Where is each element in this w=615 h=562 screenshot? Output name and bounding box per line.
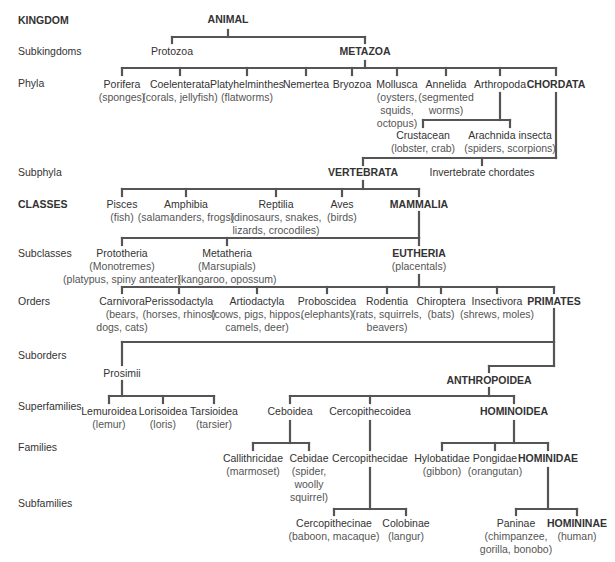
taxon-aves: Aves(birds) bbox=[327, 198, 357, 224]
taxon-name: Arachnida insecta bbox=[464, 129, 556, 142]
taxon-description: (lobster, crab) bbox=[391, 142, 455, 155]
taxon-name: Platyhelminthes bbox=[210, 78, 284, 91]
taxon-coelenterata: Coelenterata(corals, jellyfish) bbox=[142, 78, 217, 104]
taxon-description: (sponges) bbox=[99, 91, 146, 104]
taxon-cebidae: Cebidae(spider,woollysquirrel) bbox=[289, 452, 328, 504]
taxon-description: (fish) bbox=[107, 211, 138, 224]
taxon-name: Cebidae bbox=[289, 452, 328, 465]
taxon-name: MAMMALIA bbox=[390, 198, 448, 211]
taxon-name: Annelida bbox=[418, 78, 473, 91]
taxon-hominidae: HOMINIDAE bbox=[518, 452, 578, 465]
taxon-description: worms) bbox=[418, 104, 473, 117]
taxon-name: Tarsioidea bbox=[190, 405, 238, 418]
rank-label-subphyla: Subphyla bbox=[18, 166, 62, 178]
taxon-name: Carnivora bbox=[96, 295, 147, 308]
taxon-description: (marmoset) bbox=[223, 465, 283, 478]
taxon-name: ANIMAL bbox=[208, 13, 249, 26]
taxon-description: (langur) bbox=[382, 530, 429, 543]
taxon-name: Invertebrate chordates bbox=[429, 166, 534, 179]
taxon-description: (salamanders, frogs) bbox=[138, 211, 234, 224]
taxon-callithricidae: Callithricidae(marmoset) bbox=[223, 452, 283, 478]
taxon-perissodactyla: Perissodactyla(horses, rhinos) bbox=[143, 295, 216, 321]
taxon-lorisoidea: Lorisoidea(loris) bbox=[139, 405, 187, 431]
rank-label-families: Families bbox=[18, 441, 57, 453]
taxon-name: EUTHERIA bbox=[392, 247, 446, 260]
taxon-description: (placentals) bbox=[392, 260, 446, 273]
taxon-name: Pisces bbox=[107, 198, 138, 211]
taxon-name: Lorisoidea bbox=[139, 405, 187, 418]
taxon-name: Perissodactyla bbox=[143, 295, 216, 308]
taxon-artiodactyla: Artiodactyla(cows, pigs, hippos,camels, … bbox=[211, 295, 303, 334]
taxon-arthropoda: Arthropoda bbox=[474, 78, 526, 91]
taxon-nemertea: Nemertea bbox=[283, 78, 329, 91]
taxon-prosimii: Prosimii bbox=[103, 367, 140, 380]
taxon-description: (bats) bbox=[416, 308, 465, 321]
taxon-invertebrate: Invertebrate chordates bbox=[429, 166, 534, 179]
taxon-description: squirrel) bbox=[289, 491, 328, 504]
taxon-name: Paninae bbox=[480, 517, 552, 530]
taxon-description: (horses, rhinos) bbox=[143, 308, 216, 321]
taxon-insectivora: Insectivora(shrews, moles) bbox=[460, 295, 534, 321]
taxonomy-diagram: KINGDOMSubkingdomsPhylaSubphylaCLASSESSu… bbox=[0, 0, 615, 562]
taxon-name: Nemertea bbox=[283, 78, 329, 91]
taxon-reptilia: Reptilia(dinosaurs, snakes,lizards, croc… bbox=[230, 198, 321, 237]
taxon-amphibia: Amphibia(salamanders, frogs) bbox=[138, 198, 234, 224]
taxon-name: Rodentia bbox=[352, 295, 421, 308]
taxon-prototheria: Prototheria(Monotremes)(platypus, spiny … bbox=[63, 247, 181, 286]
taxon-metatheria: Metatheria(Marsupials)(kangaroo, opossum… bbox=[177, 247, 276, 286]
taxon-arachnida: Arachnida insecta(spiders, scorpions) bbox=[464, 129, 556, 155]
taxon-description: camels, deer) bbox=[211, 321, 303, 334]
taxon-description: (human) bbox=[547, 530, 607, 543]
taxon-description: (kangaroo, opossum) bbox=[177, 273, 276, 286]
taxon-chiroptera: Chiroptera(bats) bbox=[416, 295, 465, 321]
rank-label-superfamilies: Superfamilies bbox=[18, 400, 82, 412]
taxon-mollusca: Mollusca(oysters,squids,octopus) bbox=[376, 78, 417, 130]
taxon-name: METAZOA bbox=[339, 45, 390, 58]
taxon-description: (chimpanzee, bbox=[480, 530, 552, 543]
taxon-description: (loris) bbox=[139, 418, 187, 431]
taxon-name: Proboscidea bbox=[298, 295, 356, 308]
taxon-anthropoidea: ANTHROPOIDEA bbox=[446, 374, 531, 387]
taxon-paninae: Paninae(chimpanzee,gorilla, bonobo) bbox=[480, 517, 552, 556]
taxon-description: (orangutan) bbox=[468, 465, 522, 478]
taxon-description: (elephants) bbox=[298, 308, 356, 321]
taxon-hylobatidae: Hylobatidae(gibbon) bbox=[414, 452, 469, 478]
rank-label-orders: Orders bbox=[18, 295, 50, 307]
taxon-name: Chiroptera bbox=[416, 295, 465, 308]
taxon-name: Colobinae bbox=[382, 517, 429, 530]
rank-label-classes: CLASSES bbox=[18, 198, 68, 210]
taxon-name: CHORDATA bbox=[527, 78, 586, 91]
taxon-name: PRIMATES bbox=[527, 295, 580, 308]
taxon-animal: ANIMAL bbox=[208, 13, 249, 26]
taxon-chordata: CHORDATA bbox=[527, 78, 586, 91]
taxon-name: Arthropoda bbox=[474, 78, 526, 91]
rank-label-subfamilies: Subfamilies bbox=[18, 497, 72, 509]
taxon-hominoidea: HOMINOIDEA bbox=[480, 405, 548, 418]
taxon-porifera: Porifera(sponges) bbox=[99, 78, 146, 104]
taxon-name: Porifera bbox=[99, 78, 146, 91]
taxon-name: Coelenterata bbox=[142, 78, 217, 91]
taxon-homininae: HOMININAE(human) bbox=[547, 517, 607, 543]
taxon-description: woolly bbox=[289, 478, 328, 491]
taxon-name: Insectivora bbox=[460, 295, 534, 308]
taxon-primates: PRIMATES bbox=[527, 295, 580, 308]
taxon-rodentia: Rodentia(rats, squirrels,beavers) bbox=[352, 295, 421, 334]
taxon-name: Cercopithecidae bbox=[332, 452, 408, 465]
rank-label-subkingdoms: Subkingdoms bbox=[18, 45, 82, 57]
rank-label-kingdom: KINGDOM bbox=[18, 14, 69, 26]
taxon-vertebrata: VERTEBRATA bbox=[328, 166, 398, 179]
taxon-description: (baboon, macaque) bbox=[288, 530, 379, 543]
taxon-name: Mollusca bbox=[376, 78, 417, 91]
taxon-description: (bears, bbox=[96, 308, 147, 321]
taxon-description: (birds) bbox=[327, 211, 357, 224]
taxon-name: Cercopithecoidea bbox=[329, 405, 411, 418]
taxon-name: Metatheria bbox=[177, 247, 276, 260]
taxon-lemuroidea: Lemuroidea(lemur) bbox=[81, 405, 136, 431]
taxon-mammalia: MAMMALIA bbox=[390, 198, 448, 211]
taxon-description: (shrews, moles) bbox=[460, 308, 534, 321]
taxon-description: (corals, jellyfish) bbox=[142, 91, 217, 104]
taxon-name: Lemuroidea bbox=[81, 405, 136, 418]
taxon-description: (rats, squirrels, bbox=[352, 308, 421, 321]
taxon-proboscidea: Proboscidea(elephants) bbox=[298, 295, 356, 321]
taxon-cercopithecoidea: Cercopithecoidea bbox=[329, 405, 411, 418]
